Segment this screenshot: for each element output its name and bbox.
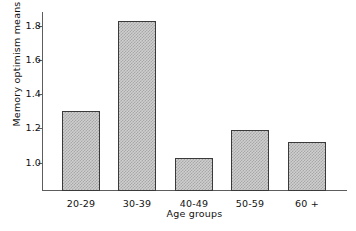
bar-30-39	[118, 21, 156, 191]
y-tick-label-0: 1.0	[1, 157, 41, 168]
bar-chart-figure: Memory optimism means 1.0 1.2 1.4 1.6 1.…	[0, 0, 356, 231]
bar-20-29	[62, 111, 100, 191]
plot-area: 1.0 1.2 1.4 1.6 1.8 20-29 30-39 40-49 50…	[42, 12, 347, 190]
y-tick-label-4: 1.8	[1, 20, 41, 31]
bar-50-59	[231, 130, 269, 191]
y-axis-line	[42, 12, 43, 191]
y-tick-label-1: 1.2	[1, 122, 41, 133]
y-tick-label-3: 1.6	[1, 54, 41, 65]
y-tick-label-2: 1.4	[1, 88, 41, 99]
bar-60-plus	[288, 142, 326, 191]
x-axis-label: Age groups	[42, 208, 347, 219]
bar-40-49	[175, 158, 213, 192]
